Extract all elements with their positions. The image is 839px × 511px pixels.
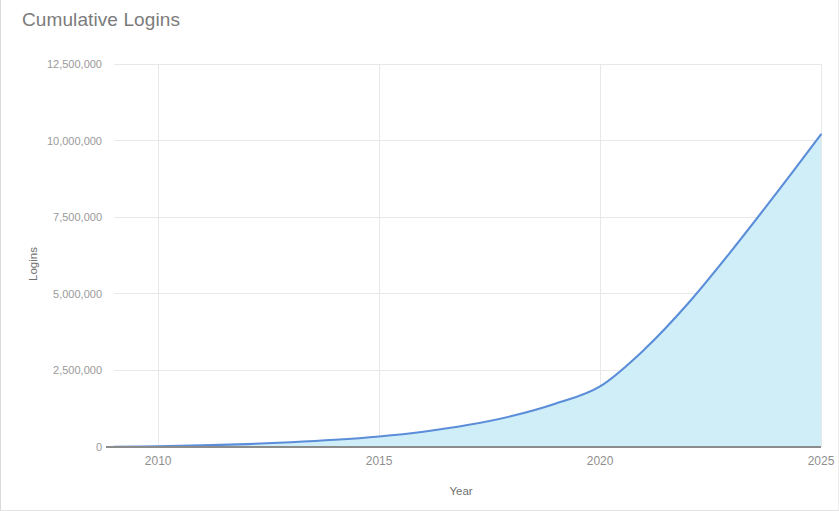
y-axis-tick-labels: 02,500,0005,000,0007,500,00010,000,00012… [47,58,102,453]
y-axis-tick-label: 2,500,000 [53,364,102,376]
x-axis-tick-label: 2010 [145,454,172,468]
x-axis-tick-label: 2020 [587,454,614,468]
y-axis-tick-label: 0 [96,441,102,453]
y-axis-tick-label: 10,000,000 [47,135,102,147]
series-area-cumulative-logins [114,134,821,447]
y-axis-tick-label: 12,500,000 [47,58,102,70]
y-axis-title: Logins [27,247,39,281]
y-axis-tick-label: 7,500,000 [53,211,102,223]
x-axis-tick-label: 2015 [366,454,393,468]
x-axis-tick-labels: 2010201520202025 [145,454,835,468]
x-axis-title: Year [449,485,472,497]
area-chart: 02,500,0005,000,0007,500,00010,000,00012… [1,0,839,511]
y-axis-tick-label: 5,000,000 [53,288,102,300]
chart-card: Cumulative Logins 02,500,0005,000,0007,5… [0,0,839,511]
x-axis-tick-label: 2025 [808,454,835,468]
